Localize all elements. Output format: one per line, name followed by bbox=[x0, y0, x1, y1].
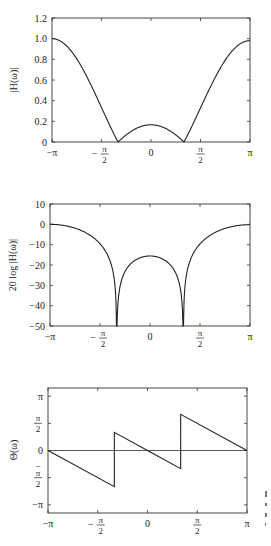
tick-label: 0 bbox=[40, 219, 45, 230]
tick-label: 0 bbox=[148, 331, 153, 342]
tick-label: 2 bbox=[102, 155, 107, 165]
tick-label: 1.2 bbox=[35, 13, 48, 24]
tick-label: π bbox=[38, 391, 43, 402]
tick-label: π bbox=[101, 328, 106, 338]
plot-2: −π−π20π2π100−10−20−30−40−5020 log |H(ω)| bbox=[7, 199, 253, 350]
margin-mark bbox=[265, 513, 267, 517]
tick-label: 0 bbox=[42, 137, 47, 148]
tick-label: −π bbox=[32, 499, 43, 510]
tick-label: −π bbox=[47, 147, 58, 158]
plot-1: −π−π20π2π00.20.40.60.81.01.2|H(ω)| bbox=[8, 13, 253, 166]
y-axis-label: Θ(ω) bbox=[8, 440, 20, 460]
tick-label: −20 bbox=[29, 260, 45, 271]
tick-label: 0.2 bbox=[35, 116, 48, 127]
tick-label: π bbox=[102, 144, 107, 154]
tick-label: − bbox=[92, 148, 98, 159]
tick-label: 10 bbox=[35, 199, 45, 210]
tick-label: 2 bbox=[99, 526, 104, 536]
tick-label: 0 bbox=[149, 147, 154, 158]
tick-label: 0.8 bbox=[35, 54, 48, 65]
margin-marks bbox=[265, 491, 267, 526]
tick-label: − bbox=[90, 332, 96, 343]
tick-label: π bbox=[195, 515, 200, 525]
tick-label: 2 bbox=[198, 339, 203, 349]
plot-3: −π−π20π2πππ20−π2−πΘ(ω) bbox=[8, 388, 250, 536]
tick-label: −10 bbox=[29, 239, 45, 250]
y-axis-label: |H(ω)| bbox=[8, 68, 20, 92]
margin-mark bbox=[265, 491, 267, 497]
tick-label: 2 bbox=[198, 155, 203, 165]
tick-label: π bbox=[247, 331, 252, 342]
tick-label: π bbox=[244, 518, 249, 529]
tick-label: − bbox=[88, 519, 94, 530]
tick-label: π bbox=[98, 515, 103, 525]
tick-label: π bbox=[198, 144, 203, 154]
tick-label: −π bbox=[45, 331, 56, 342]
tick-label: −40 bbox=[29, 300, 45, 311]
tick-label: 2 bbox=[36, 424, 41, 434]
tick-label: 0.4 bbox=[35, 95, 48, 106]
tick-label: −30 bbox=[29, 280, 45, 291]
tick-label: 0.6 bbox=[35, 75, 48, 86]
tick-label: 1.0 bbox=[35, 33, 48, 44]
data-curve bbox=[50, 224, 250, 326]
tick-label: 0 bbox=[38, 445, 43, 456]
tick-label: π bbox=[247, 147, 252, 158]
tick-label: π bbox=[36, 468, 41, 478]
y-axis-label: 20 log |H(ω)| bbox=[7, 239, 19, 291]
tick-label: 0 bbox=[145, 518, 150, 529]
plot-frame bbox=[52, 18, 250, 142]
tick-label: −π bbox=[43, 518, 54, 529]
margin-mark bbox=[265, 523, 266, 526]
tick-label: π bbox=[36, 413, 41, 423]
tick-label: 2 bbox=[195, 526, 200, 536]
figure: −π−π20π2π00.20.40.60.81.01.2|H(ω)|−π−π20… bbox=[0, 0, 271, 546]
tick-label: −50 bbox=[29, 321, 45, 332]
data-curve bbox=[52, 39, 250, 142]
tick-label: 2 bbox=[36, 479, 41, 489]
tick-label: π bbox=[198, 328, 203, 338]
tick-label: 2 bbox=[101, 339, 106, 349]
margin-mark bbox=[265, 503, 267, 506]
plot-frame bbox=[50, 204, 250, 326]
